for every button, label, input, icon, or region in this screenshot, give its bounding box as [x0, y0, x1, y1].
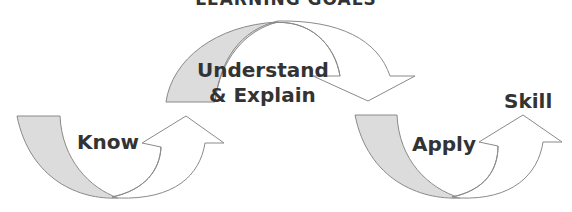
curved-arrow-know	[17, 116, 224, 198]
outcome-label-skill: Skill	[504, 91, 552, 111]
stage-label-know: Know	[77, 132, 139, 152]
curved-arrow-apply	[355, 115, 562, 198]
stage-label-understand: Understand	[197, 60, 329, 80]
learning-goals-diagram: LEARNING GOALS Know Understand & Explain…	[0, 0, 572, 212]
stage-label-explain: & Explain	[209, 85, 316, 105]
stage-label-apply: Apply	[412, 134, 476, 154]
